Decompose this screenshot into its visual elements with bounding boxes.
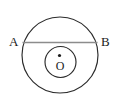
label-point-a: A bbox=[9, 34, 19, 49]
center-point-dot bbox=[58, 54, 61, 57]
geometry-figure: A B O bbox=[0, 0, 115, 109]
label-point-o: O bbox=[56, 59, 65, 73]
circles-diagram-svg: A B O bbox=[0, 0, 115, 109]
label-point-b: B bbox=[101, 34, 110, 49]
